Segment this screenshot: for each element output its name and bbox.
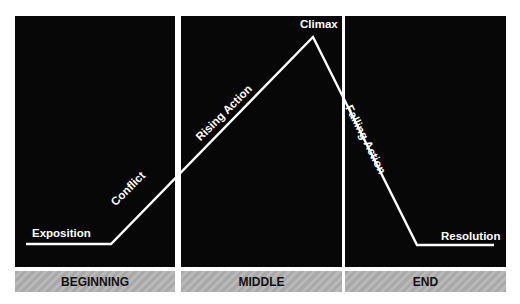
section-bar-beginning: BEGINNING — [15, 271, 175, 292]
section-label-beginning: BEGINNING — [61, 275, 129, 289]
section-label-middle: MIDDLE — [239, 275, 285, 289]
label-resolution: Resolution — [441, 230, 500, 242]
section-bar-middle: MIDDLE — [181, 271, 342, 292]
label-climax: Climax — [300, 18, 338, 30]
label-exposition: Exposition — [32, 227, 91, 239]
section-label-end: END — [413, 275, 438, 289]
plot-line — [0, 0, 520, 304]
section-bar-end: END — [345, 271, 506, 292]
